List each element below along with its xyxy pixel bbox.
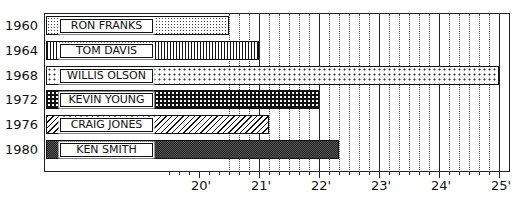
axis-tick (179, 172, 180, 175)
minor-gridline (339, 14, 340, 172)
bar-1968: WILLIS OLSON (46, 66, 499, 85)
bar-1976: CRAIG JONES (46, 115, 269, 134)
major-gridline (439, 14, 440, 172)
y-label-1972: 1972 (0, 92, 38, 107)
axis-tick (469, 172, 470, 175)
bar-name-label: TOM DAVIS (60, 44, 153, 58)
major-gridline (499, 14, 500, 172)
x-tick-label: 24' (431, 178, 451, 193)
minor-gridline (419, 14, 420, 172)
horizontal-bar-chart: RON FRANKSTOM DAVISWILLIS OLSONKEVIN YOU… (0, 0, 520, 201)
axis-tick (369, 172, 370, 175)
minor-gridline (469, 14, 470, 172)
y-label-1964: 1964 (0, 43, 38, 58)
x-tick-label: 21' (251, 178, 271, 193)
minor-gridline (399, 14, 400, 172)
axis-tick (359, 172, 360, 175)
minor-gridline (459, 14, 460, 172)
axis-tick (309, 172, 310, 175)
minor-gridline (349, 14, 350, 172)
axis-tick (269, 172, 270, 175)
bar-name-label: KEN SMITH (60, 143, 153, 157)
axis-tick (299, 172, 300, 175)
axis-tick (189, 172, 190, 175)
axis-tick (409, 172, 410, 175)
x-tick-label: 20' (191, 178, 211, 193)
axis-tick (219, 172, 220, 175)
bar-name-label: CRAIG JONES (60, 118, 153, 132)
bar-1980: KEN SMITH (46, 140, 339, 159)
minor-gridline (359, 14, 360, 172)
bar-name-label: WILLIS OLSON (60, 69, 153, 83)
axis-tick (459, 172, 460, 175)
axis-tick (339, 172, 340, 175)
minor-gridline (409, 14, 410, 172)
bar-1964: TOM DAVIS (46, 41, 259, 60)
axis-tick (229, 172, 230, 175)
axis-tick (429, 172, 430, 175)
axis-tick (389, 172, 390, 175)
axis-tick (209, 172, 210, 175)
bar-name-label: RON FRANKS (60, 19, 153, 33)
axis-tick (329, 172, 330, 175)
minor-gridline (429, 14, 430, 172)
x-tick-label: 22' (311, 178, 331, 193)
axis-tick (349, 172, 350, 175)
axis-tick (249, 172, 250, 175)
axis-tick (239, 172, 240, 175)
x-tick-label: 23' (371, 178, 391, 193)
major-gridline (379, 14, 380, 172)
axis-tick (399, 172, 400, 175)
minor-gridline (449, 14, 450, 172)
minor-gridline (369, 14, 370, 172)
axis-tick (489, 172, 490, 175)
axis-tick (289, 172, 290, 175)
axis-tick (419, 172, 420, 175)
x-tick-label: 25' (491, 178, 511, 193)
axis-tick (479, 172, 480, 175)
y-label-1968: 1968 (0, 68, 38, 83)
minor-gridline (479, 14, 480, 172)
y-label-1980: 1980 (0, 142, 38, 157)
minor-gridline (489, 14, 490, 172)
bar-1960: RON FRANKS (46, 16, 229, 35)
axis-tick (449, 172, 450, 175)
bar-name-label: KEVIN YOUNG (60, 93, 153, 107)
axis-tick (279, 172, 280, 175)
bar-1972: KEVIN YOUNG (46, 90, 319, 109)
y-label-1976: 1976 (0, 117, 38, 132)
minor-gridline (389, 14, 390, 172)
axis-tick (169, 172, 170, 175)
y-label-1960: 1960 (0, 18, 38, 33)
